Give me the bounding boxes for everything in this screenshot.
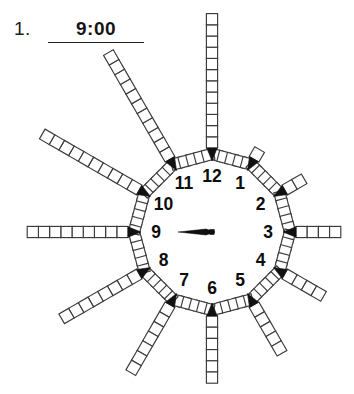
hour-label-11: 11 (175, 173, 194, 193)
spoke-9 (27, 226, 128, 237)
chain-square (206, 137, 217, 148)
clock-hands (178, 229, 215, 235)
hour-label-6: 6 (207, 278, 217, 298)
spoke-11 (104, 50, 175, 162)
chain-square (330, 226, 341, 237)
chain-square (206, 36, 217, 47)
chain-square (206, 350, 217, 361)
chain-square (38, 226, 49, 237)
clock-center-pivot (210, 229, 214, 234)
spoke-5 (249, 302, 287, 356)
hour-label-7: 7 (179, 270, 189, 290)
chain-square (106, 226, 117, 237)
spoke-10 (39, 129, 142, 195)
hour-label-10: 10 (154, 194, 174, 214)
chain-square (206, 327, 217, 338)
clock-illustration: 123456789101112 (0, 0, 354, 394)
chain-square (206, 114, 217, 125)
spoke-8 (59, 269, 142, 323)
chain-square (206, 92, 217, 103)
spoke-7 (126, 302, 175, 375)
chain-square (117, 226, 128, 237)
chain-square (206, 316, 217, 327)
chain-square (318, 226, 329, 237)
hour-label-4: 4 (256, 250, 266, 270)
chain-square (206, 361, 217, 372)
hour-label-8: 8 (159, 250, 169, 270)
spoke-3 (296, 226, 341, 237)
chain-square (206, 372, 217, 383)
chain-square (206, 58, 217, 69)
spoke-4 (282, 269, 326, 301)
chain-square (206, 25, 217, 36)
chain-square (206, 81, 217, 92)
clock-svg: 123456789101112 (0, 0, 354, 394)
chain-square (206, 338, 217, 349)
hour-label-9: 9 (151, 222, 161, 242)
hour-label-2: 2 (256, 194, 266, 214)
clock-spokes (27, 14, 341, 384)
hour-label-12: 12 (202, 166, 222, 186)
chain-square (307, 226, 318, 237)
chain-square (27, 226, 38, 237)
chain-square (94, 226, 105, 237)
chain-square (61, 226, 72, 237)
chain-square (83, 226, 94, 237)
chain-square (206, 103, 217, 114)
chain-square (206, 126, 217, 137)
chain-square (206, 47, 217, 58)
spoke-12 (206, 14, 217, 148)
chain-square (72, 226, 83, 237)
chain-square (206, 70, 217, 81)
hour-label-5: 5 (235, 270, 245, 290)
hour-label-3: 3 (263, 222, 273, 242)
chain-square (206, 14, 217, 25)
spoke-6 (206, 316, 217, 383)
hour-label-1: 1 (235, 173, 245, 193)
chain-square (50, 226, 61, 237)
chain-square (296, 226, 307, 237)
